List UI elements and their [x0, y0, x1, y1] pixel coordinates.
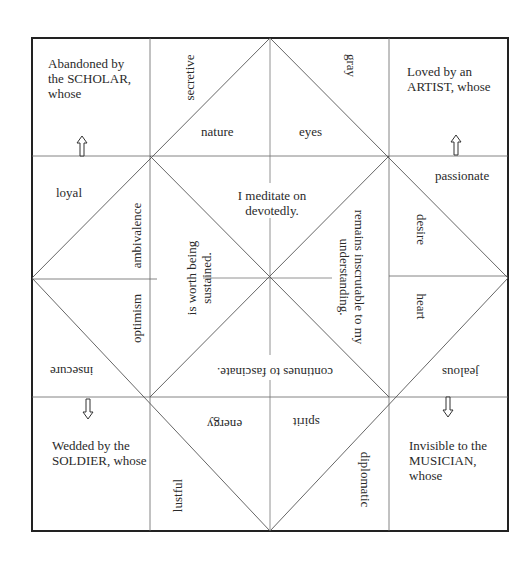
word-loyal: loyal	[56, 185, 82, 200]
word-heart: heart	[414, 288, 429, 326]
down-arrow-icon	[82, 398, 94, 420]
center-phrase-bottom: continues to fascinate.	[210, 365, 340, 380]
word-lustful: lustful	[170, 474, 185, 518]
corner-bottom-right-text: Invisible to the MUSICIAN, whose	[409, 438, 504, 483]
word-insecure: insecure	[50, 364, 93, 379]
center-phrase-right: remains inscrutable to my understanding.	[337, 202, 367, 352]
corner-top-left-text: Abandoned by the SCHOLAR, whose	[48, 56, 143, 101]
center-phrase-top: I meditate on devotedly.	[220, 188, 324, 218]
up-arrow-icon	[76, 135, 88, 157]
fortune-teller-diagram: Abandoned by the SCHOLAR, whose Loved by…	[0, 0, 522, 562]
word-passionate: passionate	[435, 168, 489, 183]
word-secretive: secretive	[182, 45, 197, 111]
word-ambivalence: ambivalence	[129, 194, 144, 278]
word-optimism: optimism	[129, 288, 144, 350]
word-eyes: eyes	[299, 124, 322, 139]
corner-bottom-left-text: Wedded by the SOLDIER, whose	[52, 438, 147, 468]
word-jealous: jealous	[442, 365, 479, 380]
word-energy: energy	[207, 417, 242, 432]
word-diplomatic: diplomatic	[358, 445, 373, 515]
word-gray: gray	[344, 46, 359, 86]
down-arrow-icon	[442, 396, 454, 418]
up-arrow-icon	[450, 134, 462, 156]
center-phrase-left: is worth being sustained.	[184, 223, 214, 333]
word-spirit: spirit	[293, 415, 320, 430]
word-nature: nature	[201, 124, 233, 139]
corner-top-right-text: Loved by an ARTIST, whose	[407, 64, 502, 94]
word-desire: desire	[414, 207, 429, 253]
